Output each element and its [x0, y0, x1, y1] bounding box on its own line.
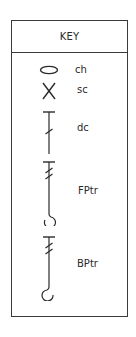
x-cross-icon — [40, 81, 58, 101]
legend-label-ch: ch — [75, 64, 87, 75]
t-bar-single-slash-icon — [41, 110, 57, 156]
key-legend-box: KEY — [11, 20, 128, 317]
t-bar-double-slash-backward-hook-icon — [41, 235, 61, 301]
legend-label-fptr: FPtr — [78, 185, 98, 196]
t-bar-double-slash-forward-hook-icon — [41, 160, 61, 226]
legend-label-sc: sc — [77, 84, 88, 95]
legend-label-dc: dc — [77, 122, 89, 133]
key-title: KEY — [12, 21, 127, 53]
ellipse-icon — [38, 64, 60, 76]
legend-label-bptr: BPtr — [77, 258, 98, 269]
